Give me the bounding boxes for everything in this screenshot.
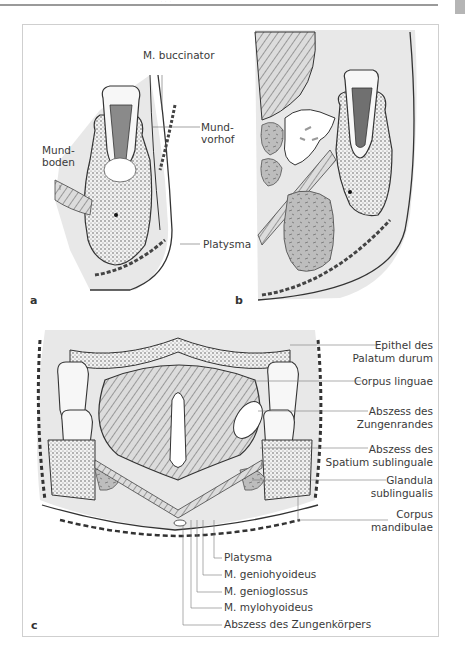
label-mundboden-line1: Mund- <box>42 144 75 157</box>
label-abszess-spatium-sublinguale: Abszess des Spatium sublinguale <box>326 443 433 468</box>
label-m-geniohyoideus: M. geniohyoideus <box>224 568 316 581</box>
label-line: Corpus linguae <box>354 375 433 388</box>
panel-letter-c: c <box>31 619 38 632</box>
label-m-mylohyoideus: M. mylohyoideus <box>224 601 313 614</box>
panel-c-drawing <box>37 330 388 625</box>
label-line: Corpus <box>371 508 433 521</box>
label-line: Zungenrandes <box>357 418 433 431</box>
label-platysma-c: Platysma <box>224 551 272 564</box>
label-corpus-mandibulae: Corpus mandibulae <box>371 508 433 533</box>
label-platysma-a: Platysma <box>203 238 251 251</box>
label-line: Spatium sublinguale <box>326 456 433 469</box>
label-line: sublingualis <box>371 487 433 500</box>
panel-letter-a: a <box>30 294 37 307</box>
label-line: Epithel des <box>352 339 433 352</box>
panel-letter-b: b <box>235 294 243 307</box>
label-epithel-palatum: Epithel des Palatum durum <box>352 339 433 364</box>
label-line: mandibulae <box>371 521 433 534</box>
label-line: Abszess des <box>326 443 433 456</box>
label-abszess-zungenrandes: Abszess des Zungenrandes <box>357 405 433 430</box>
label-line: Palatum durum <box>352 352 433 365</box>
label-corpus-linguae: Corpus linguae <box>354 375 433 388</box>
label-glandula-sublingualis: Glandula sublingualis <box>371 474 433 499</box>
label-line: Glandula <box>371 474 433 487</box>
label-abszess-zungenkoerpers: Abszess des Zungenkörpers <box>224 618 371 631</box>
label-m-genioglossus: M. genioglossus <box>224 585 308 598</box>
panel-a-drawing <box>55 75 200 290</box>
panel-b-drawing <box>255 30 417 300</box>
label-line: Abszess des <box>357 405 433 418</box>
label-m-buccinator: M. buccinator <box>143 49 214 62</box>
label-mundboden-line2: boden <box>42 156 75 169</box>
label-mundvorhof-line2: vorhof <box>201 133 235 146</box>
label-mundvorhof-line1: Mund- <box>201 121 234 134</box>
